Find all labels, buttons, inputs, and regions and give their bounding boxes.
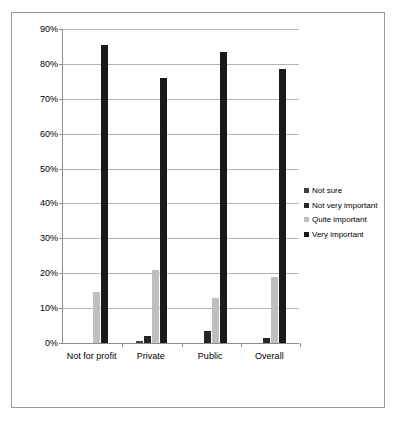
y-axis-tick-label: 50% bbox=[22, 164, 58, 173]
x-axis-category-label: Overall bbox=[255, 351, 284, 361]
x-axis-tick bbox=[182, 343, 183, 347]
bar bbox=[220, 52, 227, 343]
legend-item[interactable]: Quite important bbox=[304, 214, 384, 225]
legend-swatch-icon bbox=[304, 217, 309, 222]
chart-plot-wrapper: 0%10%20%30%40%50%60%70%80%90% Not for pr… bbox=[12, 13, 386, 409]
y-axis-tick-label: 10% bbox=[22, 304, 58, 313]
bar bbox=[160, 78, 167, 343]
x-axis-tick bbox=[241, 343, 242, 347]
y-axis-tick-label: 80% bbox=[22, 59, 58, 68]
bar bbox=[263, 338, 270, 343]
legend-swatch-icon bbox=[304, 203, 309, 208]
bar bbox=[101, 45, 108, 343]
x-axis-category-label: Not for profit bbox=[67, 351, 117, 361]
bar-group bbox=[182, 29, 241, 343]
x-axis-tick bbox=[300, 343, 301, 347]
legend-item-label: Quite important bbox=[312, 215, 367, 224]
y-axis-tick-label: 60% bbox=[22, 129, 58, 138]
bar bbox=[136, 341, 143, 343]
plot-area bbox=[62, 29, 299, 344]
bar-group bbox=[122, 29, 181, 343]
x-axis-tick bbox=[122, 343, 123, 347]
bar bbox=[152, 270, 159, 343]
legend-swatch-icon bbox=[304, 188, 309, 193]
x-axis-category-label: Private bbox=[137, 351, 165, 361]
legend-item[interactable]: Not sure bbox=[304, 185, 384, 196]
legend-item[interactable]: Not very important bbox=[304, 200, 384, 211]
y-axis-tick-label: 20% bbox=[22, 269, 58, 278]
legend-item-label: Very important bbox=[312, 230, 364, 239]
bar bbox=[93, 292, 100, 343]
y-axis-tick-label: 0% bbox=[22, 339, 58, 348]
bar bbox=[144, 336, 151, 343]
legend-item-label: Not very important bbox=[312, 201, 377, 210]
y-axis-tick-label: 90% bbox=[22, 25, 58, 34]
bar bbox=[204, 331, 211, 343]
y-axis-labels: 0%10%20%30%40%50%60%70%80%90% bbox=[16, 13, 58, 409]
bar bbox=[279, 69, 286, 343]
y-axis-tick bbox=[59, 343, 63, 344]
chart-frame: 0%10%20%30%40%50%60%70%80%90% Not for pr… bbox=[11, 12, 385, 408]
chart-legend: Not sureNot very importantQuite importan… bbox=[304, 185, 384, 243]
y-axis-tick-label: 40% bbox=[22, 199, 58, 208]
legend-item-label: Not sure bbox=[312, 186, 342, 195]
bar-group bbox=[63, 29, 122, 343]
bar-group bbox=[241, 29, 300, 343]
x-axis-category-label: Public bbox=[198, 351, 223, 361]
bar bbox=[271, 277, 278, 343]
legend-swatch-icon bbox=[304, 232, 309, 237]
y-axis-tick-label: 30% bbox=[22, 234, 58, 243]
legend-item[interactable]: Very important bbox=[304, 229, 384, 240]
y-axis-tick-label: 70% bbox=[22, 94, 58, 103]
bar bbox=[212, 298, 219, 343]
